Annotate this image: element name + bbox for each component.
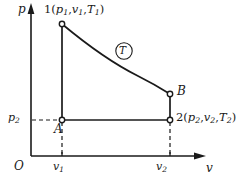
label-tick-v1: v1 [53, 161, 64, 173]
label-state-2-var-T: T2 [219, 110, 232, 124]
label-state-2-var-v: v2 [204, 110, 215, 124]
pv-diagram-canvas [0, 0, 236, 189]
label-point-b: B [177, 85, 186, 97]
label-state-2-close-paren: ) [232, 110, 236, 124]
construction-lines-group [32, 120, 170, 156]
pv-diagram-figure: 1(p1,v1,T1) 2(p2,v2,T2) B A T p v O v1 v… [0, 0, 236, 189]
label-isotherm-annotation: T [119, 45, 126, 56]
label-state-2-var-p: p2 [188, 110, 200, 124]
label-state-1-close-paren: ) [100, 2, 105, 16]
label-origin: O [14, 160, 24, 172]
axes-group [28, 3, 206, 160]
label-tick-p2: p2 [8, 112, 20, 124]
label-state-point-2: 2(p2,v2,T2) [176, 112, 236, 125]
y-axis-arrowhead [28, 3, 35, 14]
label-y-axis-pressure: p [18, 3, 26, 15]
marker-point-B [167, 91, 172, 96]
label-state-1-var-p: p1 [56, 2, 68, 16]
x-axis-arrowhead [194, 152, 206, 159]
process-path-group [62, 24, 170, 120]
label-state-1-var-T: T1 [87, 2, 100, 16]
isotherm-curve [62, 24, 170, 94]
label-x-axis-volume: v [206, 162, 213, 174]
label-tick-v2: v2 [156, 161, 167, 173]
marker-point-2 [167, 117, 172, 122]
marker-point-1 [59, 21, 64, 26]
label-point-a: A [54, 123, 63, 135]
label-state-1-var-v: v1 [72, 2, 83, 16]
label-state-point-1: 1(p1,v1,T1) [44, 4, 104, 17]
